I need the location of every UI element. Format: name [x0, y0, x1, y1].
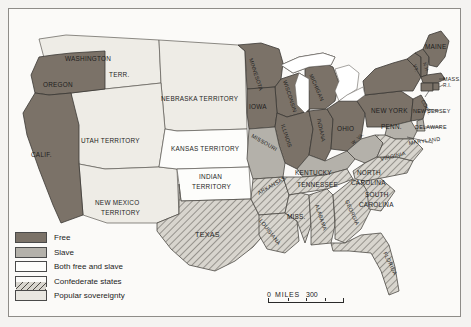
label-california: CALIF.	[31, 151, 52, 158]
label-new-york: NEW YORK	[371, 107, 408, 114]
label-north-carolina-2: CAROLINA	[351, 179, 386, 186]
label-new-jersey: NEW JERSEY	[413, 108, 451, 114]
label-texas: TEXAS	[195, 230, 220, 239]
label-north-carolina-1: NORTH	[357, 169, 381, 176]
label-tennessee: TENNESSEE	[297, 181, 338, 188]
map-scale-bar: 0 MILES 300	[267, 288, 377, 303]
label-mississippi: MISS.	[287, 213, 306, 220]
label-indian-2: TERRITORY	[192, 183, 231, 190]
map-legend: Free Slave Both free and slave	[15, 231, 165, 304]
legend-swatch-free	[15, 232, 47, 243]
label-new-mexico-2: TERRITORY	[101, 209, 140, 216]
label-oregon: OREGON	[43, 81, 73, 88]
legend-swatch-confederate	[15, 276, 47, 287]
label-new-mexico-1: NEW MEXICO	[95, 199, 139, 206]
label-ohio: OHIO	[337, 125, 354, 132]
legend-item-confederate: Confederate states	[15, 275, 165, 288]
label-south-carolina-2: CAROLINA	[359, 201, 394, 208]
scale-unit-label: MILES	[275, 291, 300, 298]
label-kansas-territory: KANSAS TERRITORY	[171, 145, 240, 152]
label-indian-1: INDIAN	[199, 173, 222, 180]
label-washington-terr: TERR.	[109, 71, 129, 78]
legend-label-popular-sovereignty: Popular sovereignty	[54, 291, 125, 300]
legend-label-slave: Slave	[54, 248, 74, 257]
legend-swatch-both	[15, 261, 47, 272]
legend-item-popular-sovereignty: Popular sovereignty	[15, 289, 165, 302]
label-washington: WASHINGTON	[65, 55, 111, 62]
legend-swatch-popular-sovereignty	[15, 290, 47, 301]
map-figure: WASHINGTON TERR. OREGON CALIF. UTAH TERR…	[0, 0, 471, 327]
legend-label-both: Both free and slave	[54, 262, 123, 271]
state-utah-territory	[71, 83, 165, 169]
legend-item-free: Free	[15, 231, 165, 244]
legend-label-free: Free	[54, 233, 70, 242]
scale-bar-graphic	[268, 298, 344, 303]
label-south-carolina-1: SOUTH	[365, 191, 389, 198]
label-iowa: IOWA	[249, 103, 267, 110]
label-kentucky: KENTUCKY	[295, 169, 332, 176]
scale-max-label: 300	[306, 291, 318, 298]
state-nebraska-territory	[159, 40, 247, 131]
legend-item-slave: Slave	[15, 246, 165, 259]
label-nebraska-territory: NEBRASKA TERRITORY	[161, 95, 239, 102]
label-utah-territory: UTAH TERRITORY	[81, 137, 140, 144]
label-maine: MAINE	[425, 43, 447, 50]
label-rhode-island: R.I.	[443, 83, 451, 88]
state-connecticut	[421, 83, 433, 91]
label-delaware: DELAWARE	[415, 124, 447, 130]
scale-labels: 0 MILES 300	[267, 288, 377, 298]
legend-label-confederate: Confederate states	[54, 277, 122, 286]
legend-swatch-slave	[15, 247, 47, 258]
map-frame: WASHINGTON TERR. OREGON CALIF. UTAH TERR…	[8, 8, 461, 317]
legend-item-both: Both free and slave	[15, 260, 165, 273]
label-pennsylvania: PENN.	[381, 123, 402, 130]
state-rhode-island	[433, 83, 439, 90]
label-massachusetts: MASS.	[443, 76, 461, 82]
